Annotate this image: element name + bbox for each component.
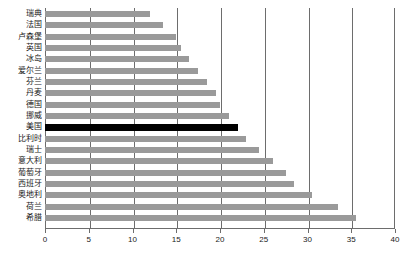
bar	[45, 34, 176, 40]
bar	[45, 56, 189, 62]
bar	[45, 45, 181, 51]
bar	[45, 68, 198, 74]
x-tick-label: 15	[166, 235, 186, 245]
category-label: 奥地利	[0, 189, 42, 200]
x-tick-label: 25	[254, 235, 274, 245]
x-tick-mark-15	[176, 229, 177, 233]
bar	[45, 79, 207, 85]
chart-row: 爱尔兰	[0, 65, 410, 76]
bar	[45, 204, 338, 210]
bar	[45, 11, 150, 17]
category-label: 芬兰	[0, 76, 42, 87]
category-label: 丹麦	[0, 87, 42, 98]
bar	[45, 181, 294, 187]
x-tick-mark-0	[45, 229, 46, 233]
bar	[45, 90, 216, 96]
category-label: 美国	[0, 121, 42, 132]
category-label: 希腊	[0, 212, 42, 223]
chart-row: 瑞士	[0, 144, 410, 155]
category-label: 卢森堡	[0, 31, 42, 42]
chart-row: 卢森堡	[0, 31, 410, 42]
x-tick-label: 20	[210, 235, 230, 245]
chart-row: 英国	[0, 42, 410, 53]
x-tick-mark-25	[264, 229, 265, 233]
x-tick-mark-5	[89, 229, 90, 233]
bar	[45, 158, 273, 164]
category-label: 瑞士	[0, 144, 42, 155]
chart-row: 法国	[0, 19, 410, 30]
category-label: 葡萄牙	[0, 167, 42, 178]
category-label: 爱尔兰	[0, 65, 42, 76]
chart-row: 瑞典	[0, 8, 410, 19]
chart-row: 丹麦	[0, 87, 410, 98]
category-label: 英国	[0, 42, 42, 53]
bar-chart: 0510152025303540瑞典法国卢森堡英国冰岛爱尔兰芬兰丹麦德国挪威美国…	[0, 0, 410, 260]
category-label: 冰岛	[0, 53, 42, 64]
x-tick-mark-40	[395, 229, 396, 233]
bar	[45, 147, 259, 153]
x-tick-mark-35	[351, 229, 352, 233]
chart-row: 挪威	[0, 110, 410, 121]
x-tick-label: 35	[341, 235, 361, 245]
category-label: 挪威	[0, 110, 42, 121]
chart-row: 荷兰	[0, 201, 410, 212]
chart-row: 葡萄牙	[0, 167, 410, 178]
chart-row: 奥地利	[0, 189, 410, 200]
category-label: 意大利	[0, 155, 42, 166]
x-tick-label: 40	[385, 235, 405, 245]
x-tick-label: 30	[298, 235, 318, 245]
category-label: 德国	[0, 99, 42, 110]
x-tick-mark-10	[133, 229, 134, 233]
category-label: 荷兰	[0, 201, 42, 212]
chart-row: 比利时	[0, 133, 410, 144]
bar	[45, 170, 286, 176]
x-tick-label: 0	[35, 235, 55, 245]
bar	[45, 102, 220, 108]
chart-title	[0, 0, 410, 7]
chart-row: 德国	[0, 99, 410, 110]
bar	[45, 136, 246, 142]
bar	[45, 113, 229, 119]
bar	[45, 192, 312, 198]
bar-highlighted	[45, 124, 238, 131]
chart-row: 芬兰	[0, 76, 410, 87]
x-tick-label: 10	[123, 235, 143, 245]
category-label: 瑞典	[0, 8, 42, 19]
chart-row: 西班牙	[0, 178, 410, 189]
category-label: 法国	[0, 19, 42, 30]
category-label: 西班牙	[0, 178, 42, 189]
chart-row: 美国	[0, 121, 410, 132]
chart-row: 希腊	[0, 212, 410, 223]
chart-row: 冰岛	[0, 53, 410, 64]
x-tick-mark-30	[308, 229, 309, 233]
chart-row: 意大利	[0, 155, 410, 166]
category-label: 比利时	[0, 133, 42, 144]
bar	[45, 215, 356, 221]
bar	[45, 22, 163, 28]
x-tick-label: 5	[79, 235, 99, 245]
x-tick-mark-20	[220, 229, 221, 233]
